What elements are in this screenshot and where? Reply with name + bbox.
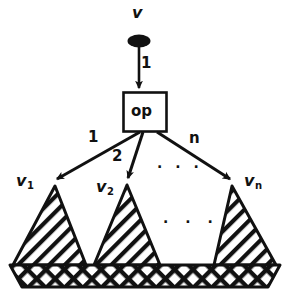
child-label-v2-base: v — [96, 177, 106, 196]
subtree-triangle-v2 — [94, 185, 160, 265]
edge-label-2: 2 — [112, 149, 122, 164]
edge-op-to-v1 — [57, 132, 140, 179]
ellipsis-upper: · · · — [157, 160, 203, 174]
root-node-ellipse — [128, 35, 151, 48]
base-band-trapezoid — [10, 265, 280, 287]
child-label-v2-subscript: 2 — [106, 186, 113, 197]
child-label-v1-base: v — [16, 171, 26, 190]
root-label: v — [132, 5, 142, 21]
figure-canvas: v 1 op 1 2 n v1 v2 vn · · · · · · — [0, 0, 286, 292]
child-label-vn-base: v — [244, 171, 254, 190]
subtree-triangle-vn — [214, 186, 276, 265]
child-label-v1: v1 — [16, 173, 34, 191]
ellipsis-lower: · · · — [163, 215, 219, 229]
diagram-svg — [0, 0, 286, 292]
subtree-triangle-v1 — [13, 186, 86, 265]
child-label-v2: v2 — [96, 179, 114, 197]
child-label-vn: vn — [244, 173, 262, 191]
child-label-vn-subscript: n — [254, 180, 262, 191]
edge-label-incoming: 1 — [141, 56, 151, 71]
edge-label-n: n — [189, 131, 200, 146]
edge-label-1: 1 — [88, 130, 98, 145]
op-box-label: op — [131, 104, 152, 119]
child-label-v1-subscript: 1 — [26, 180, 33, 191]
